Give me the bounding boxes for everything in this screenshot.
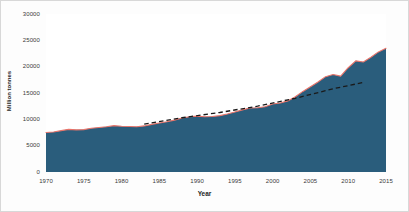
x-tick-label: 1980 bbox=[108, 178, 136, 184]
y-tick-label: 5000 bbox=[6, 142, 40, 148]
y-tick-label: 25000 bbox=[6, 37, 40, 43]
x-tick-label: 2015 bbox=[372, 178, 400, 184]
y-tick-label: 10000 bbox=[6, 116, 40, 122]
x-axis-title: Year bbox=[0, 190, 409, 197]
y-tick-label: 20000 bbox=[6, 63, 40, 69]
y-tick-label: 30000 bbox=[6, 11, 40, 17]
x-tick-label: 2005 bbox=[296, 178, 324, 184]
x-tick-label: 1970 bbox=[32, 178, 60, 184]
x-tick-label: 1975 bbox=[70, 178, 98, 184]
x-tick-label: 2000 bbox=[259, 178, 287, 184]
x-tick-label: 1995 bbox=[221, 178, 249, 184]
y-tick-label: 15000 bbox=[6, 90, 40, 96]
chart-figure: Million tonnes Year 05000100001500020000… bbox=[0, 0, 409, 212]
x-tick-label: 2010 bbox=[334, 178, 362, 184]
y-tick-label: 0 bbox=[6, 169, 40, 175]
x-tick-label: 1985 bbox=[145, 178, 173, 184]
x-tick-label: 1990 bbox=[183, 178, 211, 184]
